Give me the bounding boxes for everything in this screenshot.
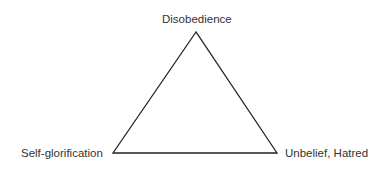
triangle-diagram: Disobedience Self-glorification Unbelief… xyxy=(0,0,387,169)
vertex-label-bottom-left: Self-glorification xyxy=(21,148,103,160)
vertex-label-bottom-right: Unbelief, Hatred xyxy=(285,148,368,160)
vertex-label-top: Disobedience xyxy=(162,14,232,26)
